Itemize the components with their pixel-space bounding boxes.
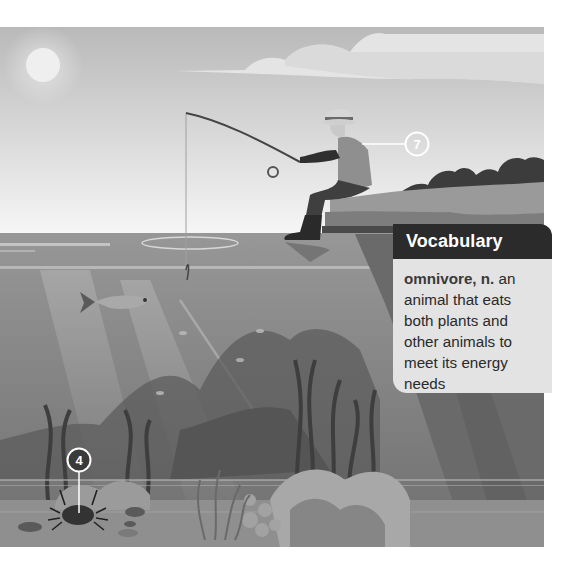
sun: [26, 48, 60, 82]
svg-text:4: 4: [75, 453, 83, 468]
vocabulary-definition-box: omnivore, n. an animal that eats both pl…: [393, 259, 552, 393]
svg-text:7: 7: [413, 137, 420, 152]
vocabulary-term: omnivore, n.: [404, 270, 494, 287]
vocabulary-definition: an animal that eats both plants and othe…: [404, 270, 515, 392]
vocabulary-callout: Vocabulary omnivore, n. an animal that e…: [393, 224, 552, 393]
vocabulary-title: Vocabulary: [393, 224, 552, 259]
